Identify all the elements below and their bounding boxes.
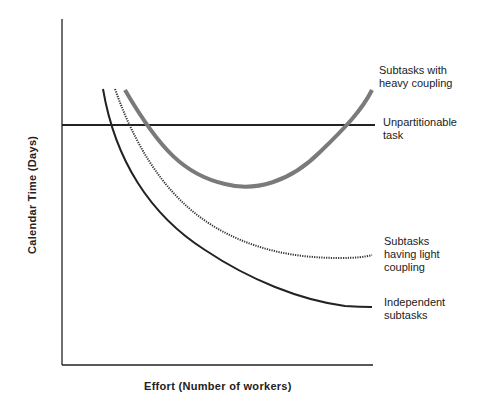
heavy-coupling-curve: [125, 90, 372, 187]
label-unpartitionable: Unpartitionable task: [383, 116, 457, 142]
label-light-coupling: Subtasks having light coupling: [384, 235, 440, 274]
label-heavy-coupling: Subtasks with heavy coupling: [379, 64, 452, 90]
label-independent: Independent subtasks: [384, 296, 445, 322]
light-coupling-curve: [115, 89, 372, 258]
chart-plot: [0, 0, 481, 402]
y-axis-title: Calendar Time (Days): [26, 136, 38, 254]
x-axis-title: Effort (Number of workers): [144, 380, 292, 392]
